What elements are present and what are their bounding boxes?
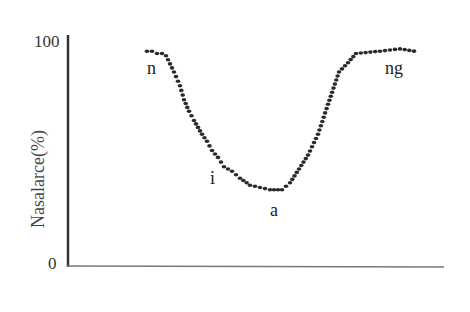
data-point xyxy=(198,129,203,133)
data-point xyxy=(226,167,231,171)
data-point xyxy=(185,106,190,110)
data-point xyxy=(189,114,194,118)
data-point xyxy=(314,137,319,141)
data-point xyxy=(373,50,378,54)
data-point xyxy=(290,178,295,182)
data-point xyxy=(398,47,403,51)
data-point xyxy=(301,160,306,164)
data-point xyxy=(383,49,388,53)
annotation-a: a xyxy=(270,200,278,221)
data-point xyxy=(160,52,165,56)
data-point xyxy=(263,187,268,191)
data-point xyxy=(230,170,235,174)
data-point xyxy=(258,186,263,190)
data-point xyxy=(359,51,364,55)
data-point xyxy=(320,120,325,124)
data-point xyxy=(368,50,373,54)
data-point xyxy=(340,67,345,71)
data-point xyxy=(216,156,221,160)
data-point xyxy=(207,144,212,148)
data-point xyxy=(234,173,239,177)
data-point xyxy=(335,74,340,78)
annotation-ng: ng xyxy=(385,58,403,79)
data-point xyxy=(280,188,285,192)
data-point xyxy=(192,119,197,123)
data-point xyxy=(196,126,201,130)
annotation-i: i xyxy=(210,168,215,189)
data-point xyxy=(295,171,300,175)
y-tick-0: 0 xyxy=(48,254,57,274)
data-point xyxy=(333,82,338,86)
data-point xyxy=(187,109,192,113)
data-point xyxy=(292,174,297,178)
data-point xyxy=(304,157,309,161)
data-point xyxy=(312,141,317,145)
chart-plot xyxy=(0,0,470,312)
data-point xyxy=(310,145,315,149)
data-point xyxy=(155,52,160,56)
data-point xyxy=(268,188,273,192)
data-point xyxy=(150,49,155,53)
data-point xyxy=(354,52,359,56)
data-point xyxy=(205,140,210,144)
data-point xyxy=(321,115,326,119)
data-point xyxy=(213,152,218,156)
data-point xyxy=(316,133,321,137)
data-point xyxy=(317,128,322,132)
y-axis-label: Nasalarce(%) xyxy=(28,130,49,228)
annotation-n: n xyxy=(147,58,156,79)
data-point xyxy=(306,153,311,157)
data-point xyxy=(319,124,324,128)
data-point xyxy=(179,89,184,93)
data-point xyxy=(284,185,289,189)
data-point xyxy=(253,185,258,189)
data-point xyxy=(178,84,183,88)
data-point xyxy=(272,188,277,192)
data-point xyxy=(183,102,188,106)
data-point xyxy=(170,66,175,70)
data-point xyxy=(330,90,335,94)
data-point xyxy=(378,49,383,53)
data-point xyxy=(168,62,173,66)
data-point xyxy=(194,122,199,126)
y-tick-100: 100 xyxy=(34,32,60,52)
data-point xyxy=(200,133,205,137)
data-point xyxy=(402,48,407,52)
data-point xyxy=(348,58,353,62)
data-point xyxy=(388,48,393,52)
data-point xyxy=(180,93,185,97)
data-point xyxy=(297,167,302,171)
data-point xyxy=(182,98,187,102)
data-point xyxy=(326,103,331,107)
data-point xyxy=(343,64,348,68)
data-point xyxy=(351,55,356,59)
x-axis xyxy=(67,266,444,267)
data-point xyxy=(327,99,332,103)
data-point xyxy=(276,188,281,192)
data-point xyxy=(176,79,181,83)
data-point xyxy=(393,48,398,52)
data-point xyxy=(172,70,177,74)
data-point xyxy=(412,49,417,53)
data-points xyxy=(145,47,417,192)
data-point xyxy=(210,149,215,153)
data-point xyxy=(308,149,313,153)
data-point xyxy=(337,70,342,74)
data-point xyxy=(334,78,339,82)
data-point xyxy=(174,75,179,79)
data-point xyxy=(299,164,304,168)
data-point xyxy=(164,54,169,58)
data-point xyxy=(407,49,412,53)
data-point xyxy=(331,86,336,90)
data-point xyxy=(346,61,351,65)
data-point xyxy=(222,165,227,169)
data-point xyxy=(324,107,329,111)
data-point xyxy=(248,183,253,187)
data-point xyxy=(288,181,293,185)
data-point xyxy=(363,51,368,55)
data-point xyxy=(323,111,328,115)
data-point xyxy=(219,160,224,164)
data-point xyxy=(329,94,334,98)
data-point xyxy=(145,49,150,53)
data-point xyxy=(166,58,171,62)
